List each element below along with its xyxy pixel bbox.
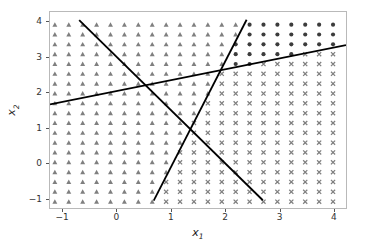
- x-tick-label: 1: [168, 212, 174, 223]
- y-tick-label: 4: [36, 15, 42, 26]
- plot-axes-area: [49, 11, 347, 209]
- y-tick-label: 2: [36, 87, 42, 98]
- decision-boundaries-layer: [50, 12, 346, 208]
- y-axis-label: x2: [5, 104, 20, 115]
- y-tick-mark: [46, 199, 49, 200]
- boundary-descending: [79, 20, 263, 200]
- y-tick-mark: [46, 128, 49, 129]
- x-tick-label: 3: [277, 212, 283, 223]
- x-tick-label: 4: [331, 212, 337, 223]
- y-tick-label: 3: [36, 51, 42, 62]
- boundary-shallow-ascending: [50, 45, 346, 104]
- x-tick-label: 0: [114, 212, 120, 223]
- y-tick-label: 1: [36, 122, 42, 133]
- matplotlib-figure: x1 x2 −101234−101234: [0, 0, 365, 250]
- y-tick-mark: [46, 92, 49, 93]
- y-tick-mark: [46, 21, 49, 22]
- x-axis-label: x1: [192, 226, 203, 241]
- y-tick-label: 0: [36, 158, 42, 169]
- y-tick-mark: [46, 163, 49, 164]
- boundary-steep-ascending: [154, 20, 247, 201]
- y-tick-label: −1: [29, 194, 42, 205]
- y-tick-mark: [46, 57, 49, 58]
- x-tick-label: 2: [222, 212, 228, 223]
- x-tick-label: −1: [55, 212, 68, 223]
